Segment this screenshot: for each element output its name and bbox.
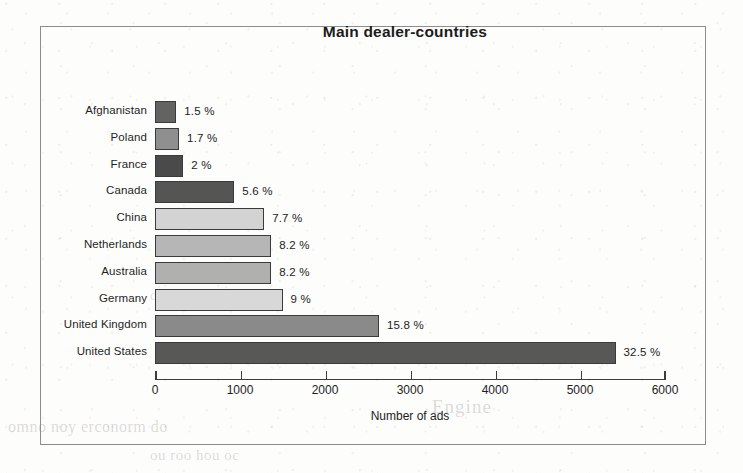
bleedthrough-text-c: ou roo hou oc [150, 447, 239, 464]
chart-title: Main dealer-countries [240, 23, 570, 41]
x-axis-title: Number of ads [155, 409, 665, 423]
chart-frame-border [40, 26, 706, 445]
